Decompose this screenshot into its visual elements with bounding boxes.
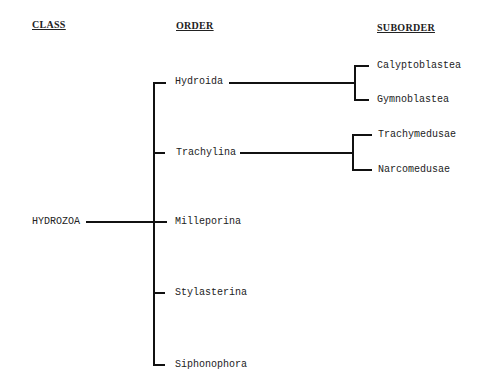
order-stylasterina: Stylasterina — [175, 287, 247, 299]
order-milleporina: Milleporina — [175, 216, 241, 228]
suborder-narcomedusae: Narcomedusae — [378, 164, 450, 176]
suborder-calyptoblastea: Calyptoblastea — [377, 60, 461, 72]
suborder-gymnoblastea: Gymnoblastea — [377, 94, 449, 106]
tree-connectors — [0, 0, 480, 390]
order-trachylina: Trachylina — [176, 147, 236, 159]
class-hydrozoa: HYDROZOA — [32, 216, 80, 228]
order-siphonophora: Siphonophora — [175, 359, 247, 371]
taxonomy-diagram: CLASS ORDER SUBORDER HYDROZOA Hydroida T… — [0, 0, 480, 390]
suborder-trachymedusae: Trachymedusae — [378, 129, 456, 141]
order-hydroida: Hydroida — [175, 76, 223, 88]
